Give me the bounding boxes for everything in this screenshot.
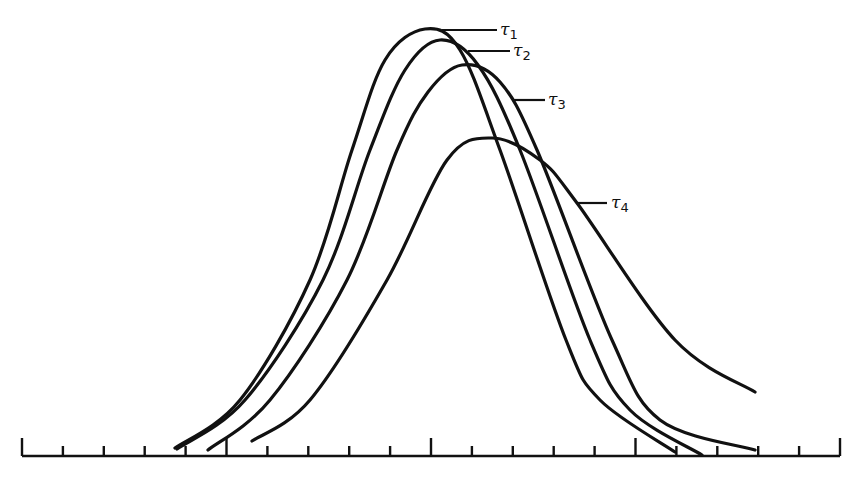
curve-tau-4: [252, 138, 755, 441]
label-tau-3: τ3: [548, 89, 566, 112]
label-tau-4: τ4: [611, 192, 629, 215]
distribution-curves-figure: τ1 τ2 τ3 τ4: [0, 0, 861, 482]
curve-tau-2: [177, 40, 702, 455]
curve-tau-3: [208, 65, 755, 450]
curves: [175, 29, 755, 455]
label-tau-2: τ2: [513, 40, 531, 63]
label-tau-1: τ1: [500, 19, 518, 42]
curve-tau-1: [175, 29, 675, 452]
